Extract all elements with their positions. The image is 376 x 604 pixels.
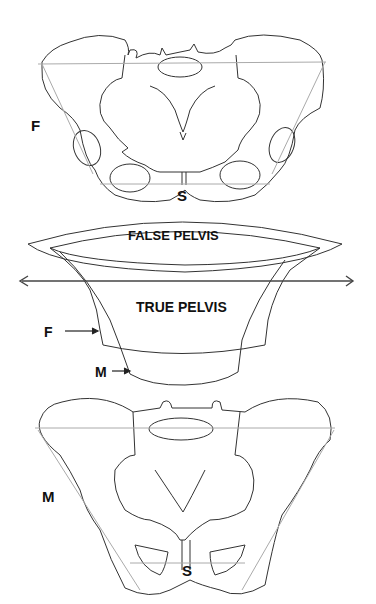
- male-symphysis-label: S: [182, 562, 192, 579]
- female-guides: [38, 62, 326, 184]
- female-pelvis-drawing: [42, 35, 324, 202]
- true-pelvis-label: TRUE PELVIS: [136, 299, 227, 315]
- male-arrow-label: M: [95, 364, 107, 380]
- pelvic-brim-arrow: [20, 276, 353, 286]
- female-side-label: F: [31, 117, 40, 134]
- pelvis-comparison-diagram: F S FALSE PELVIS TRUE PELVIS F M M S: [0, 0, 376, 604]
- false-pelvis-label: FALSE PELVIS: [128, 228, 219, 243]
- female-arrow-label: F: [44, 324, 53, 340]
- male-side-label: M: [42, 488, 55, 505]
- female-symphysis-label: S: [177, 187, 187, 204]
